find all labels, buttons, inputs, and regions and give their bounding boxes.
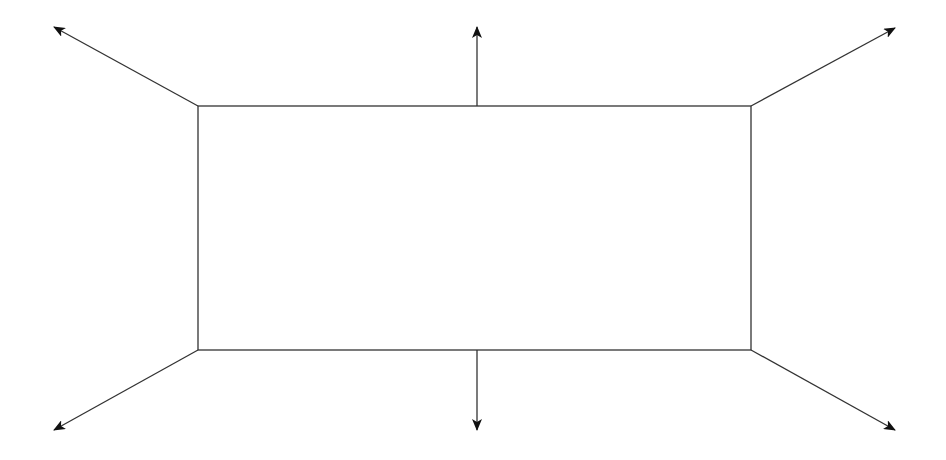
expansion-diagram bbox=[0, 0, 946, 460]
diagram-canvas bbox=[0, 0, 946, 460]
central-rectangle bbox=[198, 106, 751, 350]
arrow-top-right-icon bbox=[751, 28, 895, 106]
arrow-bottom-right-icon bbox=[751, 350, 895, 430]
arrow-top-left-icon bbox=[54, 27, 198, 106]
arrow-bottom-left-icon bbox=[54, 350, 198, 430]
arrow-group bbox=[54, 27, 895, 430]
